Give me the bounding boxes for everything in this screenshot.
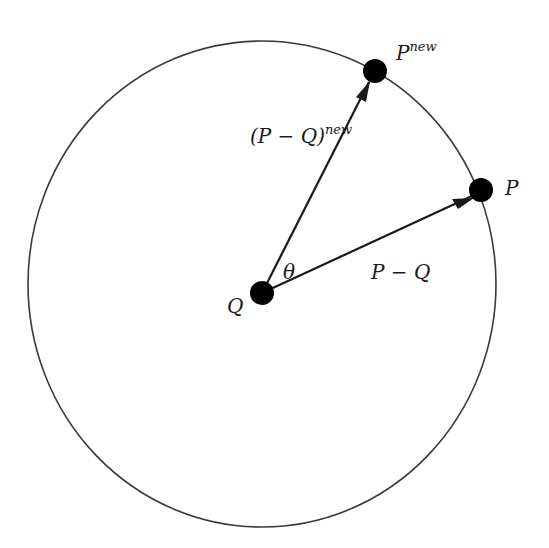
label-theta: θ xyxy=(283,260,295,284)
rotation-diagram: Q P Pnew (P − Q)new θ P − Q xyxy=(0,0,549,548)
arrowhead-p-icon xyxy=(452,198,474,209)
label-vector-p-minus-q-new-superscript: new xyxy=(325,122,352,137)
vector-p-minus-q-new xyxy=(262,82,369,293)
label-vector-p-minus-q-new-base: (P − Q) xyxy=(250,124,325,148)
point-q xyxy=(250,281,274,305)
label-p-new-superscript: new xyxy=(409,39,436,54)
label-q: Q xyxy=(227,294,243,318)
point-p xyxy=(469,178,493,202)
label-p: P xyxy=(504,176,519,200)
label-vector-p-minus-q: P − Q xyxy=(370,260,430,284)
point-p-new xyxy=(363,59,387,83)
label-p-new-base: P xyxy=(395,41,410,65)
label-p-new: Pnew xyxy=(395,39,437,65)
arrowhead-p-new-icon xyxy=(356,81,370,102)
